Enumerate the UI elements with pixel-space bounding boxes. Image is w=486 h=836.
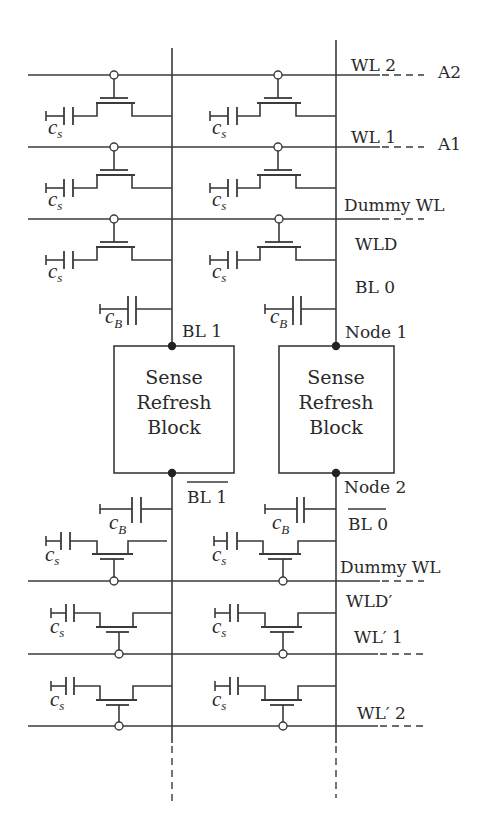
label-node1: Node 1 xyxy=(345,322,407,342)
junction-dot-bl1 xyxy=(168,342,176,350)
label-wl1: WL 1 xyxy=(351,127,396,147)
gate-bubble xyxy=(110,577,118,585)
dummy-cell-top-left xyxy=(46,215,172,269)
gate-bubble xyxy=(279,722,287,730)
label-bl0: BL 0 xyxy=(355,277,395,297)
label-dummy-wl-bottom: Dummy WL xyxy=(340,557,441,577)
label-bl1: BL 1 xyxy=(182,321,222,341)
gate-bubble xyxy=(110,71,118,79)
block-label-line2: Refresh xyxy=(299,391,374,413)
cb-subscript: B xyxy=(118,522,126,537)
svg-text:cs: cs xyxy=(50,614,64,640)
cs-subscript: s xyxy=(59,698,64,713)
gate-bubble xyxy=(279,577,287,585)
svg-text:cs: cs xyxy=(45,542,59,568)
svg-text:cs: cs xyxy=(212,187,226,213)
label-a2: A2 xyxy=(437,62,461,82)
block-label-line1: Sense xyxy=(307,366,365,388)
label-wl-prime-2: WL′ 2 xyxy=(357,703,406,723)
dummy-cell-bottom-left xyxy=(46,532,167,585)
dummy-cell-top-right xyxy=(210,215,336,269)
svg-text:cs: cs xyxy=(212,115,226,141)
sense-refresh-block-right: Sense Refresh Block xyxy=(279,346,394,473)
gate-bubble xyxy=(274,143,282,151)
memory-cell-wl-prime-1-left xyxy=(51,604,172,658)
gate-bubble xyxy=(274,71,282,79)
memory-cell-wl-prime-1-right xyxy=(215,604,336,658)
block-label-line3: Block xyxy=(309,416,363,438)
label-wl2: WL 2 xyxy=(351,55,396,75)
cb-subscript: B xyxy=(114,316,122,331)
gate-bubble xyxy=(275,215,283,223)
svg-text:cB: cB xyxy=(105,304,122,331)
cs-subscript: s xyxy=(221,126,226,141)
svg-text:cs: cs xyxy=(212,687,226,713)
memory-cell-wl2-right xyxy=(210,71,336,125)
gate-bubble xyxy=(279,650,287,658)
memory-cell-wl-prime-2-right xyxy=(215,677,336,730)
cs-subscript: s xyxy=(57,126,62,141)
cs-subscript: s xyxy=(221,625,226,640)
svg-text:cs: cs xyxy=(212,614,226,640)
block-label-line2: Refresh xyxy=(137,391,212,413)
svg-text:cB: cB xyxy=(109,510,126,537)
label-bl0-bar: BL 0 xyxy=(348,514,388,534)
label-wld: WLD xyxy=(355,234,397,254)
dummy-cell-bottom-right xyxy=(214,532,336,585)
gate-bubble xyxy=(110,143,118,151)
memory-cell-wl2-left xyxy=(46,71,172,125)
label-a1: A1 xyxy=(437,134,461,154)
block-label-line3: Block xyxy=(147,416,201,438)
svg-text:cs: cs xyxy=(48,187,62,213)
sense-refresh-block-left: Sense Refresh Block xyxy=(114,346,234,473)
dram-array-diagram: Sense Refresh Block Sense Refresh Block xyxy=(0,0,486,836)
block-label-line1: Sense xyxy=(145,366,203,388)
cb-subscript: B xyxy=(279,316,287,331)
cs-subscript: s xyxy=(54,553,59,568)
gate-bubble xyxy=(115,650,123,658)
svg-text:cs: cs xyxy=(48,115,62,141)
label-node2: Node 2 xyxy=(344,477,406,497)
junction-dot-bl1-bar xyxy=(168,469,176,477)
label-wld-prime: WLD′ xyxy=(346,591,392,611)
memory-cell-wl-prime-2-left xyxy=(51,677,172,730)
junction-dot-node1 xyxy=(332,342,340,350)
gate-bubble xyxy=(115,722,123,730)
label-dummy-wl-top: Dummy WL xyxy=(344,195,445,215)
svg-text:cB: cB xyxy=(270,304,287,331)
label-wl-prime-1: WL′ 1 xyxy=(354,627,403,647)
junction-dot-node2 xyxy=(332,469,340,477)
svg-text:cs: cs xyxy=(50,687,64,713)
svg-text:cs: cs xyxy=(212,259,226,285)
memory-cell-wl1-left xyxy=(46,143,172,197)
gate-bubble xyxy=(110,215,118,223)
cs-subscript: s xyxy=(221,553,226,568)
cs-subscript: s xyxy=(57,198,62,213)
cb-subscript: B xyxy=(281,522,289,537)
svg-text:cB: cB xyxy=(272,510,289,537)
cs-subscript: s xyxy=(221,198,226,213)
cs-subscript: s xyxy=(221,270,226,285)
memory-cell-wl1-right xyxy=(210,143,336,197)
cs-subscript: s xyxy=(221,698,226,713)
label-bl1-bar: BL 1 xyxy=(187,487,227,507)
cs-subscript: s xyxy=(57,270,62,285)
cs-subscript: s xyxy=(59,625,64,640)
svg-text:cs: cs xyxy=(212,542,226,568)
svg-text:cs: cs xyxy=(48,259,62,285)
